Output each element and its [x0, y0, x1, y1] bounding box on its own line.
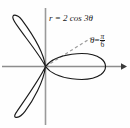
fraction-denominator: 6 — [100, 40, 106, 49]
curve-equation-text: r = 2 cos 3θ — [49, 13, 93, 23]
upper-left-petal — [13, 12, 46, 69]
fraction-numerator: π — [100, 33, 106, 41]
curve-equation-label: r = 2 cos 3θ — [49, 14, 93, 23]
theta-pi-over-6-ray — [46, 38, 92, 67]
lower-left-petal — [15, 64, 46, 119]
polar-rose-figure: r = 2 cos 3θ θ=π6 — [0, 0, 130, 128]
x-axis-arrow-icon — [121, 63, 127, 70]
ray-angle-label: θ=π6 — [90, 33, 105, 50]
x-axis — [2, 63, 127, 70]
reference-ray-dashed-line — [46, 38, 92, 67]
pi-over-six-fraction: π6 — [100, 33, 106, 50]
